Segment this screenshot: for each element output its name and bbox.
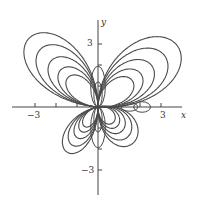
x-tick-label-3: 3 <box>160 110 166 120</box>
y-axis-label: y <box>100 17 107 27</box>
y-tick-label-3: 3 <box>87 38 93 48</box>
curve-family <box>24 33 181 154</box>
x-tick-label-neg3: −3 <box>27 110 41 120</box>
y-tick-label-neg3: −3 <box>81 165 95 175</box>
polar-plot: −3 3 3 −3 x y <box>0 0 197 207</box>
x-axis-label: x <box>181 110 186 120</box>
